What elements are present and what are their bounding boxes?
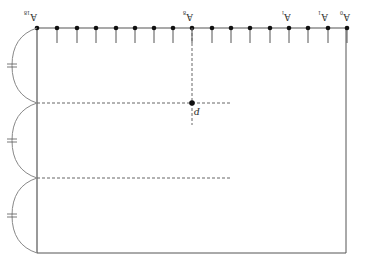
segment-brace — [12, 28, 37, 103]
point-dot — [287, 26, 292, 31]
point-dot — [306, 26, 311, 31]
point-dot — [75, 26, 80, 31]
point-dot — [133, 26, 138, 31]
point-dot — [55, 26, 60, 31]
point-dot — [94, 26, 99, 31]
point-dot — [248, 26, 253, 31]
vertex-label: A18 — [24, 8, 37, 22]
point-dot — [229, 26, 234, 31]
segment-brace — [12, 178, 37, 253]
point-dot — [152, 26, 157, 31]
point-p-label: P — [194, 106, 200, 116]
point-dot — [114, 26, 119, 31]
diagram-canvas: A18A8AiA1A0P — [0, 0, 369, 268]
point-dot — [345, 26, 350, 31]
diagram-svg — [0, 0, 369, 268]
point-dot — [326, 26, 331, 31]
point-dot — [210, 26, 215, 31]
point-p-dot — [189, 100, 195, 106]
point-dot — [268, 26, 273, 31]
vertex-label: Ai — [282, 8, 291, 22]
vertex-label: A8 — [183, 8, 193, 22]
point-dot — [171, 26, 176, 31]
segment-brace — [12, 103, 37, 178]
vertex-label: A1 — [318, 8, 328, 22]
vertex-label: A0 — [340, 8, 350, 22]
